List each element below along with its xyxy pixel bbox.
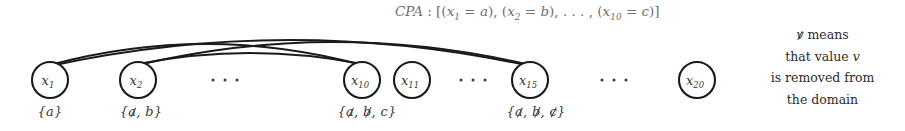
cpa-assignment: (x10 = c) [597,3,654,19]
cpa-formula-label: CPA : [(x1 = a), (x2 = b), . . . , (x10 … [395,3,660,22]
legend-line-1-text: means [803,27,848,42]
brace-close: } [154,104,163,119]
brace-close: } [54,104,63,119]
comma: , [541,104,550,119]
legend-line-3: is removed from [745,67,900,89]
ellipsis-gap-x15-x20 [601,79,628,82]
constraint-edge [138,42,530,65]
domain-value-removed: b [363,104,372,119]
ellipsis-dot [224,79,227,82]
cpa-comma: , [493,3,502,19]
brace-close: } [388,104,397,119]
brace-close: } [557,104,566,119]
cpa-equals: = [460,3,480,19]
cpa-assignment: (x2 = b) [502,3,554,19]
brace-open: { [37,104,46,119]
legend-block: v means that value v is removed from the… [745,24,900,110]
cpa-value: a [480,3,488,19]
cpa-separator: : [423,3,436,19]
legend-line-2-pre: that value [785,49,852,64]
comma: , [523,104,532,119]
cpa-prefix: CPA [395,3,423,19]
ellipsis-dot [484,79,487,82]
brace-open: { [506,104,515,119]
legend-line-4: the domain [745,89,900,111]
ellipsis-gap-x2-x10 [212,79,239,82]
domain-label-x15: {a, b, c} [506,104,565,119]
legend-line-2-var: v [853,49,860,64]
cpa-equals: = [520,3,540,19]
cpa-var: x [507,3,515,19]
constraint-graph-figure: x1x2x10x11x15x20 CPA : [(x1 = a), (x2 = … [0,0,905,131]
domain-label-x10: {a, b, c} [337,104,396,119]
cpa-assignment: (x1 = a) [441,3,493,19]
ellipsis-dot [236,79,239,82]
domain-value: c [380,104,388,119]
cpa-close-bracket: ] [654,3,659,19]
cpa-equals: = [622,3,642,19]
edges-layer [50,40,530,66]
struck-value-icon: v [796,24,803,46]
domain-value-removed: a [515,104,523,119]
domain-value-removed: b [532,104,541,119]
ellipsis-dot [212,79,215,82]
brace-open: { [337,104,346,119]
comma: , [372,104,381,119]
domain-value: a [46,104,54,119]
legend-line-2: that value v [745,46,900,68]
domain-value-removed: c [549,104,557,119]
comma: , [136,104,145,119]
brace-open: { [120,104,129,119]
cpa-var-index: 10 [610,12,621,22]
ellipsis-gap-x11-x15 [460,79,487,82]
cpa-value: b [540,3,549,19]
comma: , [354,104,363,119]
domain-value-removed: a [128,104,136,119]
ellipsis-dot [460,79,463,82]
ellipsis-dot [625,79,628,82]
ellipsis-dot [613,79,616,82]
domain-value: b [145,104,154,119]
legend-line-1: v means [745,24,900,46]
cpa-value: c [642,3,650,19]
domain-value-removed: a [346,104,354,119]
cpa-ellipsis: , . . . , [554,3,597,19]
domain-label-x1: {a} [37,104,62,119]
domain-label-x2: {a, b} [120,104,163,119]
ellipsis-dot [601,79,604,82]
cpa-var: x [603,3,611,19]
ellipsis-dot [472,79,475,82]
